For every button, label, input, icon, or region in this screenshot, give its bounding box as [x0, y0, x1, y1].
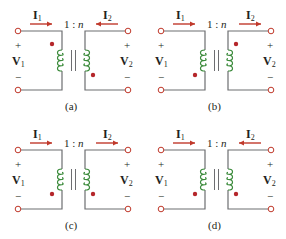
i2-subscript: 2 [108, 133, 112, 142]
terminal-secondary-top [125, 147, 131, 153]
polarity-dot-primary [50, 42, 54, 46]
v1-label: V1 [12, 55, 25, 69]
terminal-primary-top [158, 147, 164, 153]
wire [164, 190, 205, 209]
v2-plus-sign: + [124, 159, 130, 170]
v1-plus-sign: + [158, 40, 164, 51]
i1-subscript: 1 [38, 14, 42, 23]
v2-label: V2 [120, 55, 133, 69]
transformer-panel-b: I1I21 : n+V1−+V2−(b) [143, 0, 286, 119]
polarity-dot-primary [193, 73, 197, 77]
current-arrow-i2-head [96, 22, 101, 27]
secondary-coil-icon [227, 169, 233, 190]
ratio-variable: n [221, 18, 227, 30]
i2-subscript: 2 [108, 14, 112, 23]
terminal-primary-bottom [15, 206, 21, 212]
primary-coil-icon [201, 169, 207, 190]
current-arrow-i1-head [47, 141, 52, 146]
v2-subscript: 2 [272, 179, 276, 188]
wire [85, 71, 125, 90]
polarity-dot-secondary [91, 73, 95, 77]
v1-letter: V [12, 54, 21, 68]
current-arrow-i1-head [47, 22, 52, 27]
terminal-secondary-top [125, 28, 131, 34]
v1-label: V1 [155, 174, 168, 188]
wire [164, 71, 205, 90]
terminal-primary-top [158, 28, 164, 34]
wire [21, 31, 62, 50]
turns-ratio-label: 1 : n [64, 138, 84, 149]
v1-minus-sign: − [158, 72, 164, 83]
ratio-variable: n [78, 18, 84, 30]
i2-label: I2 [246, 9, 255, 23]
turns-ratio-label: 1 : n [207, 138, 227, 149]
panel-caption: (c) [65, 220, 77, 231]
panel-caption: (a) [65, 101, 77, 112]
current-arrow-i1-head [190, 22, 195, 27]
v2-minus-sign: − [267, 191, 273, 202]
i1-label: I1 [33, 128, 42, 142]
wire [85, 190, 125, 209]
i1-subscript: 1 [181, 133, 185, 142]
i1-subscript: 1 [38, 133, 42, 142]
secondary-coil-icon [227, 50, 233, 71]
v2-minus-sign: − [124, 191, 130, 202]
v2-letter: V [263, 54, 272, 68]
i1-label: I1 [176, 128, 185, 142]
v2-plus-sign: + [267, 159, 273, 170]
ratio-prefix: 1 : [207, 137, 221, 149]
wire [228, 31, 268, 50]
terminal-primary-top [15, 28, 21, 34]
polarity-dot-secondary [91, 192, 95, 196]
terminal-primary-bottom [15, 87, 21, 93]
v2-letter: V [120, 173, 129, 187]
i2-subscript: 2 [251, 133, 255, 142]
ratio-variable: n [78, 137, 84, 149]
v2-minus-sign: − [124, 72, 130, 83]
i2-label: I2 [103, 128, 112, 142]
v1-plus-sign: + [15, 40, 21, 51]
turns-ratio-label: 1 : n [64, 19, 84, 30]
polarity-dot-primary [50, 192, 54, 196]
terminal-secondary-bottom [125, 206, 131, 212]
polarity-dot-primary [193, 192, 197, 196]
secondary-coil-icon [84, 169, 90, 190]
wire [228, 150, 268, 169]
v2-minus-sign: − [267, 72, 273, 83]
polarity-dot-secondary [234, 42, 238, 46]
v1-subscript: 1 [21, 60, 25, 69]
turns-ratio-label: 1 : n [207, 19, 227, 30]
secondary-coil-icon [84, 50, 90, 71]
terminal-secondary-bottom [268, 206, 274, 212]
wire [85, 31, 125, 50]
ratio-variable: n [221, 137, 227, 149]
terminal-secondary-bottom [125, 87, 131, 93]
v1-subscript: 1 [164, 179, 168, 188]
wire [21, 150, 62, 169]
v1-subscript: 1 [21, 179, 25, 188]
v1-label: V1 [12, 174, 25, 188]
v2-plus-sign: + [124, 40, 130, 51]
i1-label: I1 [33, 9, 42, 23]
current-arrow-i2-head [256, 22, 261, 27]
transformer-panel-d: I1I21 : n+V1−+V2−(d) [143, 119, 286, 238]
i2-label: I2 [103, 9, 112, 23]
wire [21, 190, 62, 209]
v1-plus-sign: + [158, 159, 164, 170]
terminal-secondary-bottom [268, 87, 274, 93]
wire [228, 190, 268, 209]
v2-subscript: 2 [129, 60, 133, 69]
primary-coil-icon [58, 169, 64, 190]
v1-letter: V [12, 173, 21, 187]
i1-subscript: 1 [181, 14, 185, 23]
terminal-secondary-top [268, 28, 274, 34]
current-arrow-i2-head [239, 141, 244, 146]
panel-caption: (d) [208, 220, 221, 231]
primary-coil-icon [201, 50, 207, 71]
v1-minus-sign: − [15, 191, 21, 202]
v2-subscript: 2 [129, 179, 133, 188]
primary-coil-icon [58, 50, 64, 71]
transformer-panel-c: I1I21 : n+V1−+V2−(c) [0, 119, 143, 238]
v2-letter: V [120, 54, 129, 68]
current-arrow-i1-head [190, 141, 195, 146]
